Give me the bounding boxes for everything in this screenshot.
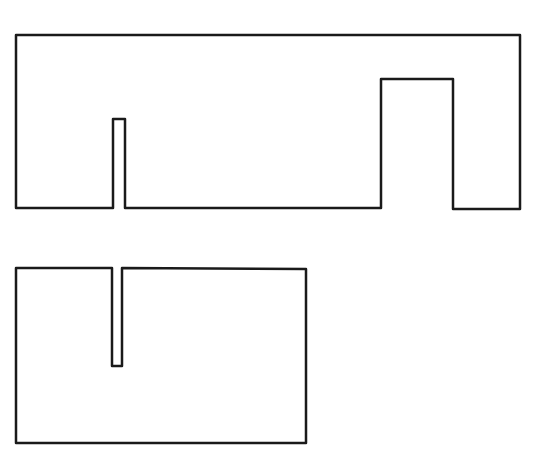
lower-slotted-rectangle — [16, 268, 306, 443]
upper-notched-rectangle — [16, 35, 520, 209]
diagram-canvas — [0, 0, 546, 456]
